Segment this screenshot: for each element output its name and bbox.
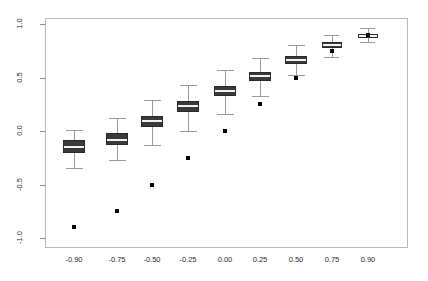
box-group [63,0,85,281]
box-group [214,0,236,281]
whisker-cap-upper [144,100,161,101]
whisker-cap-upper [360,28,375,29]
true-value-dot [186,156,190,160]
whisker-lower [225,96,226,114]
true-value-dot [115,209,119,213]
whisker-cap-lower [144,145,161,146]
box-group [285,0,307,281]
y-tick-label: 1.0 [15,11,24,37]
median-line [178,105,198,107]
median-line [323,44,341,46]
whisker-upper [152,100,153,116]
whisker-cap-lower [66,168,83,169]
whisker-upper [260,58,261,72]
true-value-dot [223,129,227,133]
box-group [141,0,163,281]
whisker-lower [117,145,118,160]
whisker-cap-lower [360,42,375,43]
boxplot-figure: 1.00.50.0-0.5-1.0 -0.90-0.75-0.50-0.250.… [0,0,428,281]
median-line [215,90,235,92]
y-tick-label: 0.5 [15,64,24,90]
median-line [142,120,162,122]
whisker-cap-upper [66,130,83,131]
whisker-cap-upper [180,85,197,86]
whisker-lower [152,127,153,145]
box-group [106,0,128,281]
box-group [249,0,271,281]
whisker-cap-lower [252,96,269,97]
y-tick-label: -0.5 [15,171,24,197]
true-value-dot [366,33,370,37]
whisker-cap-upper [252,58,269,59]
true-value-dot [72,225,76,229]
median-line [286,59,306,61]
median-line [64,146,84,148]
true-value-dot [150,183,154,187]
median-line [107,139,127,141]
whisker-upper [332,35,333,42]
whisker-upper [74,130,75,140]
box-group [322,0,342,281]
whisker-upper [296,45,297,56]
box-group [177,0,199,281]
whisker-cap-upper [324,35,339,36]
whisker-cap-upper [217,70,234,71]
true-value-dot [294,76,298,80]
whisker-lower [260,81,261,96]
whisker-cap-upper [288,45,305,46]
y-tick-label: 0.0 [15,118,24,144]
whisker-lower [74,153,75,168]
whisker-cap-lower [180,131,197,132]
whisker-upper [188,85,189,101]
whisker-cap-lower [109,160,126,161]
true-value-dot [330,49,334,53]
whisker-cap-lower [217,114,234,115]
whisker-cap-lower [324,57,339,58]
whisker-upper [117,118,118,133]
whisker-cap-upper [109,118,126,119]
box-group [358,0,378,281]
whisker-upper [225,70,226,86]
y-tick-label: -1.0 [15,225,24,251]
true-value-dot [258,102,262,106]
whisker-lower [188,112,189,131]
median-line [250,75,270,77]
whisker-lower [296,64,297,76]
